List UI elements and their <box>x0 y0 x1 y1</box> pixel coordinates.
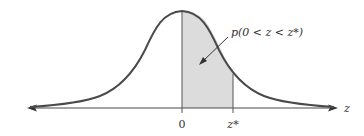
annotation-label: p(0 < z < z*) <box>231 26 303 39</box>
normal-distribution-diagram: p(0 < z < z*) 0 z* z <box>0 0 364 136</box>
axis-label-z: z <box>343 102 350 115</box>
tick-label-z-star: z* <box>226 118 239 131</box>
tick-label-zero: 0 <box>179 118 186 131</box>
